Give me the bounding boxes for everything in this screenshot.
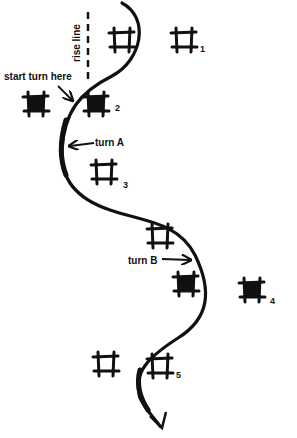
turn-b-label: turn B: [128, 255, 157, 266]
marker-label-4: 4: [270, 296, 275, 306]
marker-turn-b-inner-filled: [173, 272, 199, 296]
pattern-diagram: rise line start turn here turn A turn B …: [0, 0, 297, 438]
marker-left-of-2-filled: [23, 92, 49, 116]
turn-b-arrow: [162, 259, 190, 260]
start-turn-label: start turn here: [4, 71, 72, 82]
start-turn-arrow: [58, 86, 72, 100]
marker-4-filled: [239, 278, 265, 302]
ride-path-thick-b: [138, 370, 148, 410]
marker-label-2: 2: [115, 103, 120, 113]
marker-2-filled: [83, 92, 109, 116]
marker-top-near-path-open: [109, 28, 135, 52]
marker-label-1: 1: [200, 44, 205, 54]
marker-5-open: [147, 354, 173, 378]
marker-1-open: [171, 28, 197, 52]
turn-a-label: turn A: [95, 137, 124, 148]
ride-path: [62, 3, 206, 426]
marker-left-of-5-open: [93, 352, 119, 376]
turn-a-arrow: [70, 143, 94, 146]
marker-label-5: 5: [176, 370, 181, 380]
marker-mid-before-turn-b-open: [147, 224, 173, 248]
marker-3-open: [91, 160, 117, 184]
ride-path-thick-a: [62, 120, 67, 175]
marker-label-3: 3: [123, 180, 128, 190]
rise-line-label: rise line: [71, 24, 82, 62]
